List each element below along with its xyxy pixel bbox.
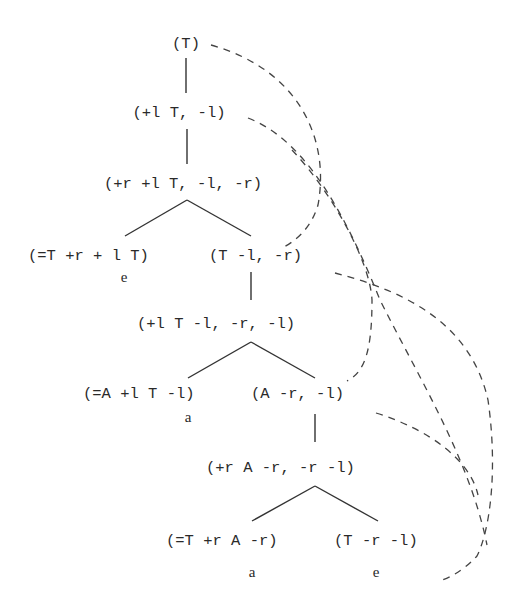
node-n7b: (T -r -l) [334,532,418,550]
edge-n2-n3b [187,200,251,236]
node-n3b: (T -l, -r) [209,247,302,265]
leaf-label-n7a: a [249,564,256,580]
dashed-link-n2-n5b [292,150,372,381]
edge-n4-n5a [188,342,251,378]
node-n4: (+l T -l, -r, -l) [137,315,295,333]
leaf-label-n7b: e [373,564,380,580]
dashed-link-n5b-n7b [376,413,478,495]
leaf-label-n5a: a [185,409,192,425]
leaf-label-n3a: e [121,269,128,285]
node-n0: (T) [172,35,200,53]
node-n3a: (=T +r + l T) [28,247,149,265]
dashed-links [211,45,492,581]
node-n7a: (=T +r A -r) [166,532,278,550]
tree-edges [125,58,378,521]
edge-n2-n3a [125,200,187,236]
edge-n4-n5b [251,342,315,378]
edge-n6-n7a [252,486,315,521]
node-n2: (+r +l T, -l, -r) [104,175,262,193]
derivation-tree-diagram: (T) (+l T, -l) (+r +l T, -l, -r) (=T +r … [0,0,521,603]
node-n5b: (A -r, -l) [251,385,344,403]
node-n6: (+r A -r, -r -l) [206,459,355,477]
edge-n6-n7b [315,486,378,521]
node-n5a: (=A +l T -l) [83,385,195,403]
dashed-link-n0-n3b [211,45,321,247]
node-n1: (+l T, -l) [132,104,225,122]
tree-nodes: (T) (+l T, -l) (+r +l T, -l, -r) (=T +r … [28,35,418,550]
